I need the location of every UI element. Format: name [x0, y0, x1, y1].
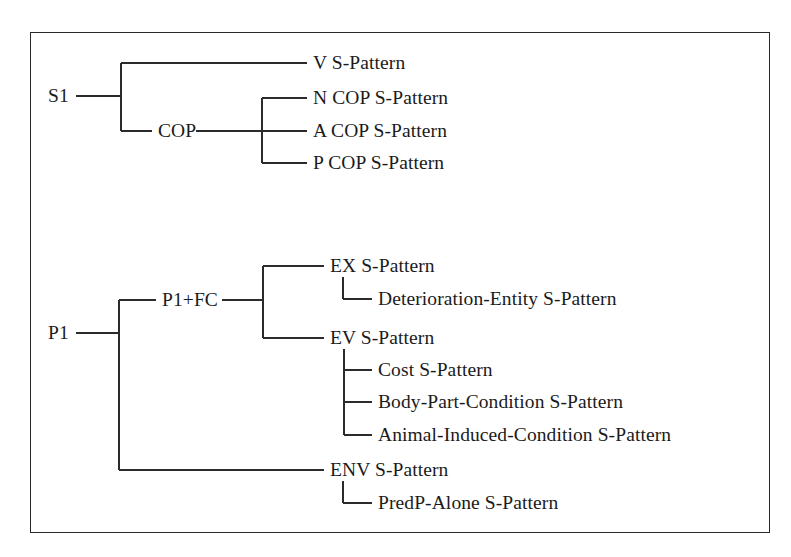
- node-p-cop-s-pattern: P COP S-Pattern: [313, 153, 444, 173]
- node-a-cop-s-pattern: A COP S-Pattern: [313, 121, 447, 141]
- node-p1-root: P1: [48, 323, 69, 343]
- node-cost-s-pattern: Cost S-Pattern: [378, 360, 493, 380]
- node-cop: COP: [158, 121, 196, 141]
- node-p1-fc: P1+FC: [162, 290, 218, 310]
- node-body-part-condition-s-pattern: Body-Part-Condition S-Pattern: [378, 392, 623, 412]
- node-deterioration-entity-s-pattern: Deterioration-Entity S-Pattern: [378, 289, 617, 309]
- node-v-s-pattern: V S-Pattern: [313, 53, 405, 73]
- node-s1-root: S1: [48, 86, 69, 106]
- node-ex-s-pattern: EX S-Pattern: [330, 256, 435, 276]
- node-n-cop-s-pattern: N COP S-Pattern: [313, 88, 448, 108]
- node-ev-s-pattern: EV S-Pattern: [330, 328, 434, 348]
- node-animal-induced-condition-s-pattern: Animal-Induced-Condition S-Pattern: [378, 425, 671, 445]
- node-env-s-pattern: ENV S-Pattern: [330, 460, 448, 480]
- node-predp-alone-s-pattern: PredP-Alone S-Pattern: [378, 493, 558, 513]
